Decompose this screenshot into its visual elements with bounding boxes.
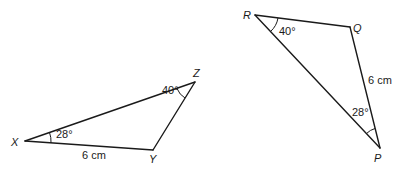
vertex-label-z: Z	[192, 67, 201, 79]
vertex-label-r: R	[243, 9, 251, 21]
vertex-label-p: P	[374, 152, 382, 164]
angle-label-x: 28°	[56, 128, 73, 140]
side-label-xy: 6 cm	[82, 149, 106, 161]
diagram-canvas: X Y Z 28° 40° 6 cm R Q P 40° 28° 6 cm	[0, 0, 399, 174]
angle-label-z: 40°	[162, 84, 179, 96]
angle-arc-x	[50, 133, 52, 144]
side-label-qp: 6 cm	[368, 74, 392, 86]
vertex-label-q: Q	[353, 22, 362, 34]
vertex-label-x: X	[10, 136, 19, 148]
triangle-xyz: X Y Z 28° 40° 6 cm	[10, 67, 201, 165]
side-rq	[255, 15, 350, 27]
vertex-label-y: Y	[149, 153, 157, 165]
side-pr	[255, 15, 380, 148]
angle-arc-r	[271, 18, 279, 32]
triangle-pqr: R Q P 40° 28° 6 cm	[243, 9, 392, 164]
side-qp	[350, 27, 380, 148]
angle-label-p: 28°	[352, 106, 369, 118]
angle-label-r: 40°	[279, 25, 296, 37]
angle-arc-p	[367, 129, 376, 134]
